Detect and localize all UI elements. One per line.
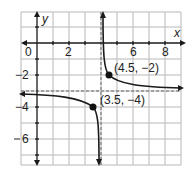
tick-label-x6: 6 (130, 45, 137, 59)
asymptotes (21, 12, 181, 165)
tick-label-y-6: 6 (22, 132, 29, 146)
point-label-4.5--2: (4.5, −2) (114, 61, 159, 75)
x-axis-right-arrow-icon (180, 40, 186, 46)
tick-label-x8: 8 (162, 45, 169, 59)
tick-label-y-4: −4 (15, 100, 29, 114)
tick-label-0: 0 (25, 45, 32, 59)
left-branch-left-arrow-icon (19, 91, 25, 97)
y-axis-label: y (41, 12, 49, 26)
left-branch (21, 94, 99, 162)
tick-label-y-2: −2 (15, 68, 29, 82)
tick-label-x2: 2 (65, 45, 72, 59)
right-branch (103, 14, 181, 88)
point-4.5--2 (106, 72, 113, 79)
point-3.5--4 (90, 104, 97, 111)
x-axis-label: x (173, 26, 181, 40)
point-label-3.5--4: (3.5, −4) (100, 93, 145, 107)
graph: y x 0 2 6 8 −2 −4 6 (4.5, −2) (3.5, −4) (0, 0, 192, 177)
